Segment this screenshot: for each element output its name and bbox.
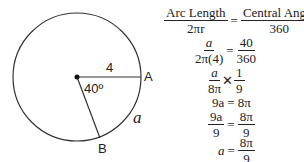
equation-line-2: a2π(4) = 40360 — [195, 36, 256, 65]
cross-multiply-icon: ✕ — [222, 73, 233, 89]
equation-line-3: a8π ✕ 19 — [208, 66, 245, 95]
radius-label: 4 — [106, 61, 113, 74]
equation-line-1: Arc Length2πr = Central Angle360 — [164, 6, 304, 35]
fraction: Central Angle360 — [241, 6, 304, 35]
equation-line-6: a = 8π9 — [218, 136, 255, 162]
fraction: Arc Length2πr — [164, 6, 228, 35]
angle-label: 40º — [84, 82, 103, 95]
center-point — [75, 75, 80, 80]
solution-steps: Arc Length2πr = Central Angle360 a2π(4) … — [150, 0, 304, 162]
circle-figure — [0, 0, 150, 162]
circle-diagram: 4 40º A B a — [0, 0, 150, 162]
point-b-label: B — [98, 142, 107, 155]
arc-label: a — [133, 109, 142, 126]
